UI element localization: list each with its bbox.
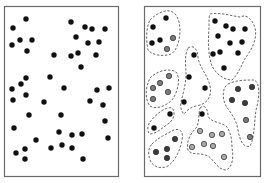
cluster-point: [150, 24, 155, 29]
data-point: [23, 75, 28, 80]
cluster-point: [230, 26, 235, 31]
data-point: [106, 85, 111, 90]
cluster-point: [221, 65, 226, 70]
data-point: [59, 142, 64, 147]
cluster-point: [219, 131, 224, 136]
data-point: [102, 118, 107, 123]
cluster-point: [249, 84, 254, 89]
data-point: [10, 97, 15, 102]
cluster-point: [164, 146, 169, 151]
data-point: [61, 85, 66, 90]
cluster-point: [151, 125, 156, 130]
cluster-point: [221, 154, 226, 159]
cluster-point: [197, 128, 202, 133]
data-point: [68, 19, 73, 24]
right-panel-clustered: [145, 7, 261, 177]
data-point: [69, 145, 74, 150]
data-point: [93, 52, 98, 57]
cluster-point: [163, 15, 168, 20]
data-point: [9, 86, 14, 91]
data-point: [23, 16, 28, 21]
cluster-point: [167, 111, 172, 116]
data-point: [69, 132, 74, 137]
cluster-point: [235, 50, 240, 55]
data-point: [33, 137, 38, 142]
data-point: [41, 99, 46, 104]
clustered-points-frame: [145, 7, 261, 177]
data-point: [9, 42, 14, 47]
cluster-point: [242, 100, 247, 105]
left-panel-unclustered: [5, 7, 119, 177]
data-point: [89, 26, 94, 31]
data-point: [48, 145, 53, 150]
cluster-point: [189, 144, 194, 149]
cluster-point: [201, 141, 206, 146]
cluster-point: [150, 85, 155, 90]
cluster-point: [210, 143, 215, 148]
data-point: [56, 129, 61, 134]
cluster-point: [199, 111, 204, 116]
data-point: [85, 40, 90, 45]
cluster-point: [202, 85, 207, 90]
cluster-point: [170, 35, 175, 40]
cluster-point: [243, 117, 248, 122]
data-point: [47, 74, 52, 79]
cluster-point: [186, 74, 191, 79]
cluster-point: [164, 46, 169, 51]
data-point: [105, 135, 110, 140]
cluster-point: [229, 97, 234, 102]
data-point: [87, 98, 92, 103]
cluster-point: [172, 136, 177, 141]
data-point: [82, 24, 87, 29]
cluster-point: [209, 132, 214, 137]
cluster-point: [181, 99, 186, 104]
cluster-point: [150, 96, 155, 101]
data-point: [58, 112, 63, 117]
cluster-point: [212, 18, 217, 23]
cluster-diagram: [0, 0, 265, 183]
cluster-point: [239, 39, 244, 44]
cluster-point: [191, 52, 196, 57]
cluster-point: [153, 149, 158, 154]
cluster-point: [210, 51, 215, 56]
data-point: [94, 87, 99, 92]
data-point: [22, 156, 27, 161]
cluster-point: [157, 37, 162, 42]
data-point: [75, 50, 80, 55]
cluster-point: [149, 40, 154, 45]
data-point: [79, 131, 84, 136]
data-point: [80, 156, 85, 161]
cluster-point: [166, 73, 171, 78]
cluster-point: [223, 23, 228, 28]
unclustered-points-frame: [5, 7, 119, 177]
data-point: [29, 37, 34, 42]
cluster-point: [164, 155, 169, 160]
cluster-point: [165, 89, 170, 94]
cluster-point: [215, 33, 220, 38]
data-point: [23, 92, 28, 97]
data-point: [78, 64, 83, 69]
cluster-point: [217, 49, 222, 54]
cluster-point: [235, 86, 240, 91]
data-point: [73, 34, 78, 39]
data-point: [102, 26, 107, 31]
cluster-point: [227, 40, 232, 45]
data-point: [100, 102, 105, 107]
data-point: [13, 150, 18, 155]
data-point: [11, 125, 16, 130]
data-point: [18, 81, 23, 86]
cluster-point: [242, 26, 247, 31]
data-point: [24, 48, 29, 53]
data-point: [96, 39, 101, 44]
data-point: [17, 37, 22, 42]
data-point: [68, 53, 73, 58]
data-point: [10, 25, 15, 30]
data-point: [26, 112, 31, 117]
diagram-canvas: [0, 0, 265, 183]
cluster-point: [247, 134, 252, 139]
data-point: [22, 146, 27, 151]
data-point: [51, 52, 56, 57]
cluster-point: [157, 80, 162, 85]
